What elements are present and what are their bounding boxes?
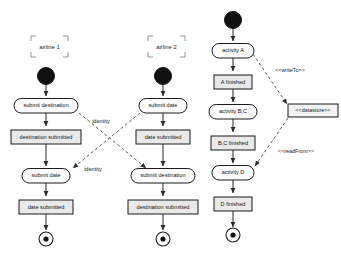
bracket-corner-br xyxy=(63,52,68,57)
node-l-date-submitted[interactable]: date submitted xyxy=(19,200,73,214)
bracket-corner-bl xyxy=(31,52,36,57)
state-label: D finished xyxy=(221,201,246,207)
action-label: submit destination xyxy=(23,102,68,108)
action-label: activity D xyxy=(222,169,245,175)
action-label: activity B,C xyxy=(219,108,247,114)
partition-label-airline-2: airline 2 xyxy=(156,44,176,50)
action-label: submit date xyxy=(149,102,178,108)
partition-airline-1: airline 1 xyxy=(31,36,68,57)
node-datastore[interactable]: <<datastore>> xyxy=(288,104,338,117)
node-l-final[interactable] xyxy=(39,232,53,246)
diagram-surface: airline 1 airline 2 submit destination xyxy=(0,0,341,258)
bracket2-corner-br xyxy=(180,52,185,57)
identity-2-label: identity xyxy=(84,166,102,172)
final-node-inner xyxy=(43,236,48,241)
action-label: submit destination xyxy=(140,172,185,178)
node-m-init[interactable] xyxy=(155,68,172,85)
partition-label-airline-1: airline 1 xyxy=(39,44,59,50)
node-m-destination-submitted[interactable]: destination submitted xyxy=(128,200,198,214)
identity-1-label: identity xyxy=(92,118,110,124)
final-node-inner xyxy=(230,232,235,237)
node-m-final[interactable] xyxy=(156,232,170,246)
final-node-inner xyxy=(160,236,165,241)
activity-diagram-canvas: airline 1 airline 2 submit destination xyxy=(0,0,341,258)
bracket2-corner-tr xyxy=(180,36,185,41)
node-r-a-finished[interactable]: A finished xyxy=(214,75,252,89)
node-l-init[interactable] xyxy=(38,68,55,85)
node-l-submit-date[interactable]: submit date xyxy=(22,169,70,184)
state-label: A finished xyxy=(221,79,245,85)
write-to-line xyxy=(253,54,287,104)
dependency-read-from[interactable]: <<readFrom>> xyxy=(255,118,314,166)
node-r-final[interactable] xyxy=(226,228,240,242)
initial-node-icon xyxy=(155,68,172,85)
node-m-submit-destination[interactable]: submit destination xyxy=(131,169,195,184)
node-m-date-submitted[interactable]: date submitted xyxy=(136,130,190,144)
node-r-activity-bc[interactable]: activity B,C xyxy=(209,105,257,120)
initial-node-icon xyxy=(38,68,55,85)
read-from-line xyxy=(255,118,288,166)
initial-node-icon xyxy=(225,12,242,29)
bracket-corner-tr xyxy=(63,36,68,41)
datastore-label: <<datastore>> xyxy=(295,107,330,113)
state-label: date submitted xyxy=(145,134,182,140)
node-r-activity-d[interactable]: activity D xyxy=(212,166,254,181)
action-label: activity A xyxy=(222,47,244,53)
read-from-label: <<readFrom>> xyxy=(278,148,314,154)
state-label: destination submitted xyxy=(137,204,190,210)
node-r-activity-a[interactable]: activity A xyxy=(212,44,254,59)
node-r-bc-finished[interactable]: B,C finished xyxy=(211,136,255,150)
bracket2-corner-bl xyxy=(148,52,153,57)
node-m-submit-date[interactable]: submit date xyxy=(139,99,187,114)
action-label: submit date xyxy=(32,172,61,178)
bracket2-corner-tl xyxy=(148,36,153,41)
partition-airline-2: airline 2 xyxy=(148,36,185,57)
state-label: destination submitted xyxy=(20,134,73,140)
dependency-write-to[interactable]: <<writeTo>> xyxy=(253,54,305,104)
bracket-corner-tl xyxy=(31,36,36,41)
node-r-d-finished[interactable]: D finished xyxy=(214,197,252,211)
state-label: B,C finished xyxy=(218,140,248,146)
node-l-submit-destination[interactable]: submit destination xyxy=(14,99,78,114)
node-r-init[interactable] xyxy=(225,12,242,29)
write-to-label: <<writeTo>> xyxy=(275,67,305,73)
node-l-destination-submitted[interactable]: destination submitted xyxy=(11,130,81,144)
state-label: date submitted xyxy=(28,204,65,210)
